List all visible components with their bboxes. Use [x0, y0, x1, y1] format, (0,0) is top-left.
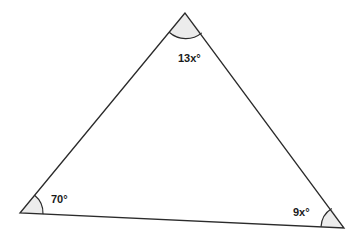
triangle-shape [20, 13, 344, 228]
angle-label-top: 13x° [178, 52, 201, 64]
angle-label-bottom-left: 70° [51, 193, 68, 205]
angle-label-bottom-right: 9x° [293, 206, 310, 218]
